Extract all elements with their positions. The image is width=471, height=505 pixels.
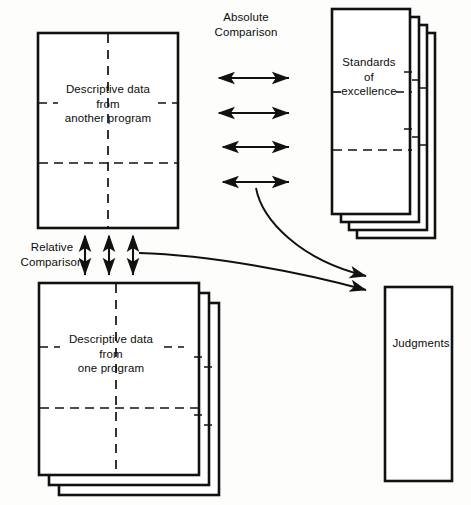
relative-comparison-label: Relative Comparison bbox=[6, 240, 98, 269]
standards-of-excellence-stack[interactable] bbox=[332, 9, 436, 238]
one-program-stack[interactable] bbox=[39, 283, 220, 495]
absolute-comparison-label: Absolute Comparison bbox=[186, 10, 306, 39]
one-program-card-front bbox=[39, 283, 199, 475]
judgments-card-rect bbox=[385, 287, 452, 481]
standards-card-front bbox=[332, 9, 410, 214]
diagram-canvas: Absolute Comparison Relative Comparison … bbox=[0, 0, 471, 505]
absolute-comparison-arrows bbox=[219, 78, 289, 182]
judgments-card[interactable] bbox=[385, 287, 452, 481]
another-program-card[interactable] bbox=[38, 33, 178, 228]
